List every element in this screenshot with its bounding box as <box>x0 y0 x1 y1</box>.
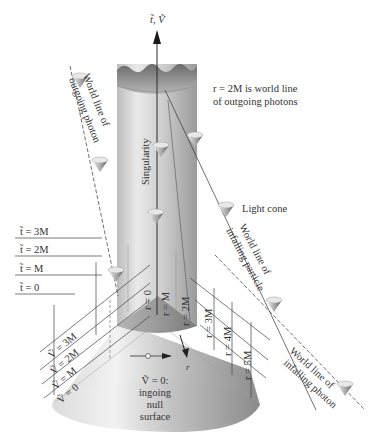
t-slice-label-0: t̃ = 0 <box>20 282 39 293</box>
r-label-0: r = 0 <box>142 290 153 310</box>
null-surface-label-line1: Ṽ = 0: <box>120 375 190 386</box>
light-cone-label: Light cone <box>242 203 287 214</box>
r-label-4m: r = 4M <box>222 327 233 356</box>
null-surface-label-line3: null <box>120 399 190 410</box>
r2m-caption-line1: r = 2M is world line <box>213 83 297 94</box>
r2m-caption-line2: of outgoing photons <box>213 96 298 107</box>
null-surface-label-line2: ingoing <box>120 387 190 398</box>
r-label-3m: r = 3M <box>203 309 214 338</box>
r-label-5m: r = 5M <box>242 351 253 380</box>
r-axis-label: r <box>186 362 190 373</box>
r-label-m: r = M <box>160 292 171 316</box>
t-slice-label-m: t̃ = M <box>20 263 43 274</box>
r-label-2m: r = 2M <box>180 297 191 326</box>
null-surface-label-line4: surface <box>120 411 190 422</box>
t-slice-label-2m: t̃ = 2M <box>20 244 49 255</box>
singularity-label: Singularity <box>140 138 151 185</box>
t-slice-label-3m: t̃ = 3M <box>20 226 49 237</box>
time-axis-label: t̃, Ṽ <box>150 14 165 25</box>
